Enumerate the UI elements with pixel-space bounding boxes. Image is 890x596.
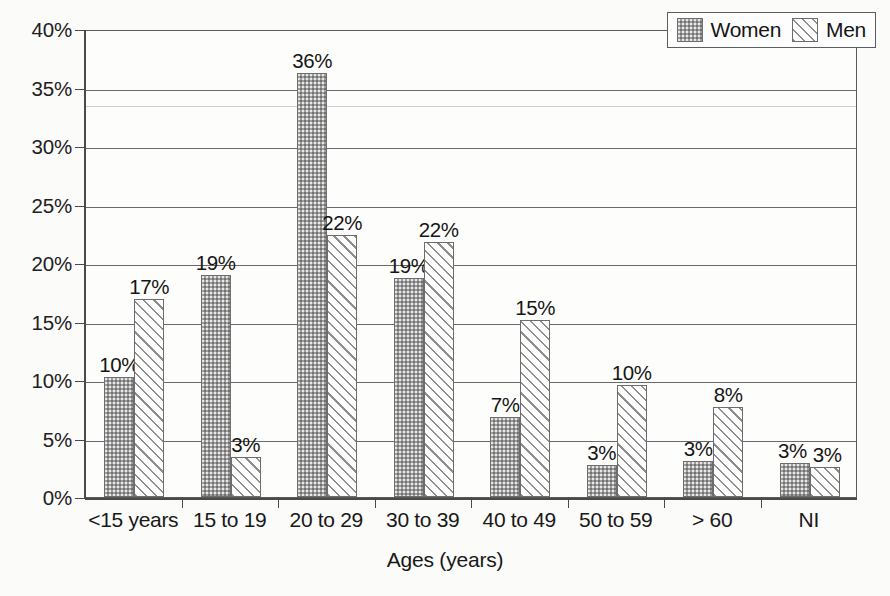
bar-value-label: 8% — [714, 383, 743, 407]
bar-value-label: 19% — [196, 251, 236, 275]
y-tick-label: 25% — [10, 194, 72, 218]
gridline — [86, 90, 856, 91]
bar-women: 10% — [104, 377, 134, 498]
y-tick-label: 10% — [10, 369, 72, 393]
y-tick-mark — [75, 206, 84, 207]
y-tick-mark — [75, 89, 84, 90]
bar-women: 3% — [780, 463, 810, 497]
x-axis-title: Ages (years) — [0, 548, 890, 572]
y-tick-mark — [75, 381, 84, 382]
y-tick-label: 30% — [10, 135, 72, 159]
gridline — [86, 207, 856, 208]
gridline — [86, 265, 856, 266]
bar-men: 8% — [713, 407, 743, 497]
bar-value-label: 3% — [813, 443, 842, 467]
bar-women: 19% — [394, 278, 424, 497]
y-tick-label: 20% — [10, 252, 72, 276]
legend-swatch-women-icon — [677, 18, 703, 42]
bar-value-label: 22% — [322, 211, 362, 235]
y-tick-label: 15% — [10, 311, 72, 335]
legend-swatch-men-icon — [792, 18, 818, 42]
gridline — [86, 148, 856, 149]
bar-value-label: 19% — [389, 254, 429, 278]
bar-women: 7% — [490, 417, 520, 497]
y-tick-label: 5% — [10, 428, 72, 452]
bar-value-label: 10% — [99, 353, 139, 377]
scan-artifact-line — [86, 106, 856, 107]
bar-men: 17% — [134, 299, 164, 497]
y-axis-line — [84, 30, 86, 499]
bar-value-label: 36% — [292, 49, 332, 73]
bar-value-label: 22% — [419, 218, 459, 242]
bar-men: 22% — [327, 235, 357, 497]
bar-men: 15% — [520, 320, 550, 497]
bar-value-label: 17% — [129, 275, 169, 299]
x-tick-label: NI — [799, 508, 819, 532]
bar-men: 10% — [617, 385, 647, 497]
x-tick-mark — [278, 497, 279, 508]
x-tick-label: 30 to 39 — [386, 508, 460, 532]
y-tick-label: 35% — [10, 77, 72, 101]
bar-men: 22% — [424, 242, 454, 497]
x-tick-mark — [568, 497, 569, 508]
x-tick-label: 15 to 19 — [193, 508, 267, 532]
x-tick-label: > 60 — [692, 508, 732, 532]
bar-men: 3% — [231, 457, 261, 497]
legend: Women Men — [667, 12, 876, 48]
x-tick-mark — [375, 497, 376, 508]
x-tick-mark — [761, 497, 762, 508]
x-tick-label: <15 years — [88, 508, 178, 532]
chart-figure: 10%17%19%3%36%22%19%22%7%15%3%10%3%8%3%3… — [0, 0, 890, 596]
y-tick-label: 0% — [10, 486, 72, 510]
x-tick-label: 20 to 29 — [290, 508, 364, 532]
x-tick-label: 40 to 49 — [483, 508, 557, 532]
y-tick-mark — [75, 30, 84, 31]
x-tick-mark — [182, 497, 183, 508]
y-tick-mark — [75, 440, 84, 441]
y-tick-mark — [75, 323, 84, 324]
plot-area: 10%17%19%3%36%22%19%22%7%15%3%10%3%8%3%3… — [85, 30, 857, 498]
legend-entry-women: Women — [677, 18, 781, 42]
bar-value-label: 7% — [491, 393, 520, 417]
y-tick-label: 40% — [10, 18, 72, 42]
bar-women: 3% — [587, 465, 617, 497]
bar-value-label: 15% — [515, 296, 555, 320]
x-tick-mark — [664, 497, 665, 508]
bar-women: 19% — [201, 275, 231, 497]
bar-value-label: 3% — [778, 439, 807, 463]
x-tick-mark — [471, 497, 472, 508]
bar-value-label: 3% — [587, 441, 616, 465]
bar-women: 3% — [683, 461, 713, 497]
y-tick-mark — [75, 147, 84, 148]
legend-label-women: Women — [711, 18, 781, 42]
legend-label-men: Men — [826, 18, 866, 42]
bar-men: 3% — [810, 467, 840, 497]
x-tick-label: 50 to 59 — [579, 508, 653, 532]
y-tick-mark — [75, 264, 84, 265]
bar-value-label: 3% — [231, 433, 260, 457]
y-tick-mark — [75, 498, 84, 499]
legend-entry-men: Men — [792, 18, 866, 42]
bar-women: 36% — [297, 73, 327, 497]
